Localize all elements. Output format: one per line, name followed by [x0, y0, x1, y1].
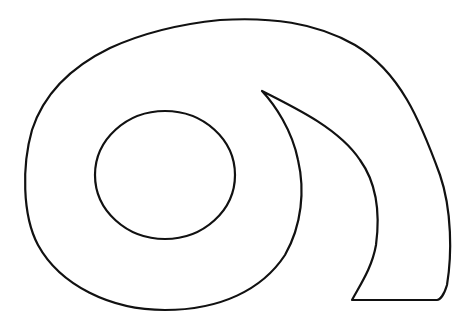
outer-glyph-outline [25, 19, 450, 310]
glyph-outline-drawing [0, 0, 475, 330]
inner-oval-hole [95, 111, 235, 239]
